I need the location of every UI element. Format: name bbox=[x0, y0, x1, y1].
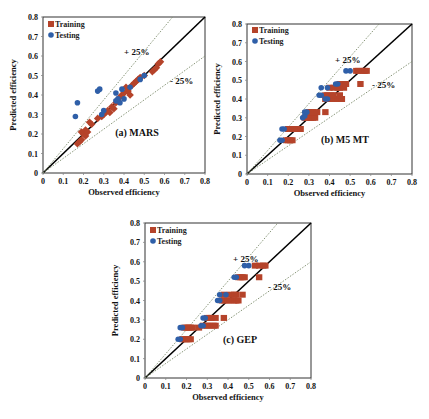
training-point bbox=[322, 109, 328, 115]
y-tick-label: 0.6 bbox=[28, 52, 38, 61]
x-tick-label: 0.4 bbox=[223, 382, 233, 391]
y-tick-label: 0.4 bbox=[28, 91, 38, 100]
y-tick-label: 0.7 bbox=[232, 39, 242, 48]
panel-label: (a) MARS bbox=[115, 127, 159, 139]
x-tick-label: 0.8 bbox=[306, 382, 316, 391]
y-tick-label: 0.6 bbox=[232, 58, 242, 67]
training-point bbox=[190, 325, 196, 331]
x-tick-label: 0.5 bbox=[244, 382, 254, 391]
panel-label: (c) GEP bbox=[223, 334, 257, 346]
training-point bbox=[212, 323, 218, 329]
minus-25-annotation: - 25% bbox=[372, 80, 395, 90]
x-tick-label: 0.6 bbox=[265, 382, 275, 391]
y-tick-label: 0.5 bbox=[28, 72, 38, 81]
y-tick-label: 0 bbox=[136, 374, 140, 383]
testing-point bbox=[234, 274, 240, 280]
x-tick-label: 0.4 bbox=[119, 177, 129, 186]
plus-25-annotation: + 25% bbox=[124, 47, 149, 57]
testing-point bbox=[127, 84, 133, 90]
testing-point bbox=[325, 96, 331, 102]
y-tick-label: 0.2 bbox=[130, 335, 140, 344]
y-tick-label: 0.8 bbox=[28, 13, 38, 22]
x-tick-label: 0.7 bbox=[180, 177, 190, 186]
y-tick-label: 0.3 bbox=[130, 316, 140, 325]
testing-point bbox=[177, 336, 183, 342]
plus-25-annotation: + 25% bbox=[335, 55, 360, 65]
y-tick-label: 0.1 bbox=[232, 151, 242, 160]
training-point bbox=[297, 126, 303, 132]
x-tick-label: 0.8 bbox=[200, 177, 210, 186]
x-tick-label: 0.8 bbox=[407, 178, 417, 187]
y-tick-label: 0.1 bbox=[28, 150, 38, 159]
training-point bbox=[212, 315, 218, 321]
legend-testing-label: Testing bbox=[157, 237, 182, 246]
training-point bbox=[337, 92, 343, 98]
x-tick-label: 0.5 bbox=[139, 177, 149, 186]
testing-point bbox=[137, 77, 143, 83]
x-tick-label: 0.2 bbox=[283, 178, 293, 187]
y-tick-label: 0.3 bbox=[28, 111, 38, 120]
y-tick-label: 0 bbox=[238, 170, 242, 179]
testing-point bbox=[347, 68, 353, 74]
y-tick-label: 0.8 bbox=[130, 219, 140, 228]
training-point bbox=[357, 81, 363, 87]
legend-testing-swatch bbox=[150, 238, 156, 244]
legend-training-label: Training bbox=[157, 226, 187, 235]
testing-point bbox=[318, 92, 324, 98]
y-axis-label: Predicted efficiency bbox=[8, 59, 18, 131]
x-axis-label: Observed efficiency bbox=[192, 392, 264, 402]
y-tick-label: 0.7 bbox=[130, 238, 140, 247]
testing-point bbox=[202, 315, 208, 321]
training-point bbox=[233, 292, 239, 298]
testing-point bbox=[217, 298, 223, 304]
testing-point bbox=[117, 100, 123, 106]
legend-training-label: Training bbox=[55, 20, 85, 29]
testing-point bbox=[141, 73, 147, 79]
legend-testing-swatch bbox=[252, 38, 258, 44]
x-tick-label: 0 bbox=[143, 382, 147, 391]
legend-training-label: Training bbox=[259, 26, 289, 35]
legend-testing-label: Testing bbox=[259, 37, 284, 46]
legend-training-swatch bbox=[252, 27, 258, 33]
testing-point bbox=[73, 114, 79, 120]
testing-point bbox=[217, 292, 223, 298]
training-point bbox=[262, 263, 268, 269]
x-tick-label: 0.7 bbox=[386, 178, 396, 187]
chart-panel-2: 00.10.20.30.40.50.60.70.800.10.20.30.40.… bbox=[110, 219, 316, 402]
testing-point bbox=[119, 86, 125, 92]
y-tick-label: 0.7 bbox=[28, 33, 38, 42]
y-tick-label: 0.5 bbox=[130, 277, 140, 286]
testing-point bbox=[75, 100, 81, 106]
x-tick-label: 0.2 bbox=[182, 382, 192, 391]
y-axis-label: Predicted efficiency bbox=[110, 264, 120, 336]
minus-25-annotation: - 25% bbox=[268, 282, 291, 292]
minus-25-annotation: - 25% bbox=[170, 76, 193, 86]
y-tick-label: 0.1 bbox=[130, 355, 140, 364]
x-tick-label: 0 bbox=[245, 178, 249, 187]
y-tick-label: 0.5 bbox=[232, 76, 242, 85]
panel-label: (b) M5 MT bbox=[321, 134, 369, 146]
plus-25-annotation: + 25% bbox=[233, 254, 258, 264]
testing-point bbox=[121, 96, 127, 102]
training-point bbox=[314, 109, 320, 115]
chart-panel-0: 00.10.20.30.40.50.60.70.800.10.20.30.40.… bbox=[8, 13, 210, 197]
legend-testing-swatch bbox=[48, 32, 54, 38]
x-tick-label: 0 bbox=[41, 177, 45, 186]
figure: 00.10.20.30.40.50.60.70.800.10.20.30.40.… bbox=[0, 0, 429, 419]
testing-point bbox=[223, 292, 229, 298]
testing-point bbox=[304, 109, 310, 115]
x-tick-label: 0.3 bbox=[99, 177, 109, 186]
x-tick-label: 0.1 bbox=[58, 177, 68, 186]
x-tick-label: 0.4 bbox=[325, 178, 335, 187]
testing-point bbox=[325, 85, 331, 91]
training-point bbox=[221, 315, 227, 321]
training-point bbox=[343, 81, 349, 87]
y-tick-label: 0.4 bbox=[232, 95, 242, 104]
x-tick-label: 0.6 bbox=[366, 178, 376, 187]
training-point bbox=[256, 274, 262, 280]
training-point bbox=[239, 292, 245, 298]
x-tick-label: 0.3 bbox=[202, 382, 212, 391]
training-point bbox=[312, 115, 318, 121]
y-tick-label: 0.6 bbox=[130, 258, 140, 267]
training-point bbox=[187, 336, 193, 342]
